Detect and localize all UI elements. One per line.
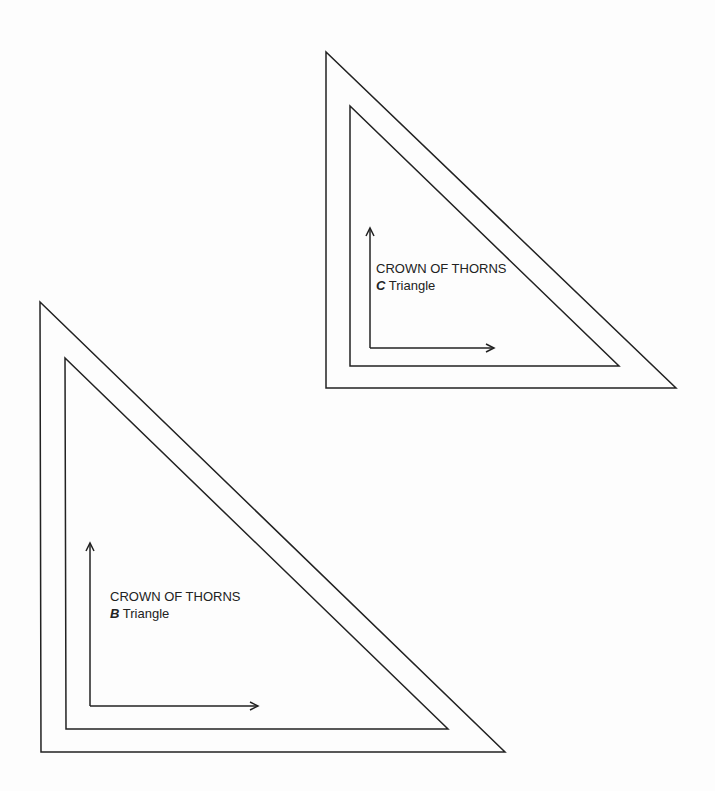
triangle-b-axes bbox=[86, 543, 258, 710]
triangle-c-title: CROWN OF THORNS bbox=[376, 260, 506, 277]
triangle-c-subtitle-line: C Triangle bbox=[376, 277, 506, 294]
triangle-b-title: CROWN OF THORNS bbox=[110, 588, 240, 605]
triangle-b-inner bbox=[65, 358, 448, 729]
triangle-c bbox=[326, 52, 676, 388]
triangle-b-subtitle: Triangle bbox=[123, 606, 169, 621]
triangle-c-outer bbox=[326, 52, 676, 388]
triangle-b-letter: B bbox=[110, 606, 119, 621]
triangle-c-letter: C bbox=[376, 278, 385, 293]
triangle-c-subtitle: Triangle bbox=[389, 278, 435, 293]
triangle-b-label: CROWN OF THORNS B Triangle bbox=[110, 588, 240, 622]
diagram-canvas bbox=[0, 0, 715, 791]
triangle-c-label: CROWN OF THORNS C Triangle bbox=[376, 260, 506, 294]
triangle-b bbox=[40, 302, 505, 752]
triangle-b-outer bbox=[40, 302, 505, 752]
triangle-b-subtitle-line: B Triangle bbox=[110, 605, 240, 622]
triangle-c-inner bbox=[350, 106, 619, 366]
